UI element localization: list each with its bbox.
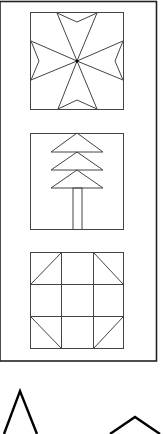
- maltese-cross-block: [31, 13, 124, 110]
- shoofly-block: [30, 252, 124, 349]
- chevron-outline: [110, 417, 160, 434]
- quilt-figure: [0, 0, 165, 434]
- triangle-outline: [4, 391, 37, 434]
- pine-tree-block: [31, 133, 124, 230]
- frame-border: [0, 2, 157, 362]
